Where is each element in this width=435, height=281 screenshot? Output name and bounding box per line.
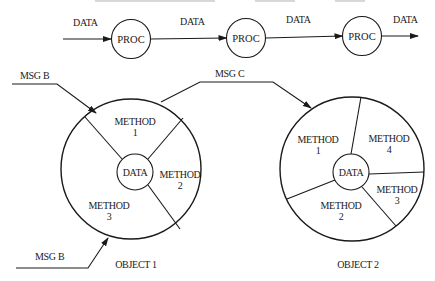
object-1-method-1-label: METHOD (115, 116, 156, 127)
data-label-1-2: DATA (180, 16, 206, 27)
object-2-method-3-label: METHOD (377, 184, 418, 195)
msg-b-top-arrow (12, 84, 96, 113)
process-label-1: PROC (117, 34, 144, 45)
process-label-3: PROC (348, 31, 375, 42)
process-node-3: PROC (343, 17, 382, 56)
process-vs-object-diagram: DATA PROC DATA PROC DATA PROC DATA DATA (0, 0, 435, 281)
object-2-method-1-number: 1 (316, 145, 321, 156)
message-msg-c: MSG C (161, 68, 311, 108)
data-label-in: DATA (73, 17, 99, 28)
process-node-2: PROC (227, 19, 266, 58)
object-2-method-4-number: 4 (387, 144, 392, 155)
data-flow-arrow-2-3 (266, 36, 343, 38)
process-pipeline: DATA PROC DATA PROC DATA PROC DATA (63, 14, 419, 59)
data-label-2-3: DATA (286, 14, 312, 25)
msg-c-label: MSG C (215, 68, 245, 79)
process-label-2: PROC (232, 33, 259, 44)
data-label-out: DATA (393, 14, 419, 25)
object-2-method-3-number: 3 (395, 195, 400, 206)
object-2-divider (287, 180, 335, 199)
object-1-data-label: DATA (123, 167, 149, 178)
object-2-data-label: DATA (339, 167, 365, 178)
process-node-1: PROC (112, 20, 151, 59)
object-1-caption: OBJECT 1 (115, 259, 157, 270)
object-2-caption: OBJECT 2 (337, 259, 379, 270)
object-2-method-4-label: METHOD (369, 133, 410, 144)
object-2-divider (351, 97, 361, 154)
object-1-method-2-number: 2 (178, 180, 183, 191)
data-flow-arrow-1-2 (151, 38, 227, 39)
msg-b-top-label: MSG B (20, 70, 50, 81)
object-1-method-1-number: 1 (133, 127, 138, 138)
object-1-divider (148, 185, 180, 229)
object-2-divider (369, 172, 424, 174)
object-1: DATA METHOD 1 METHOD 2 METHOD 3 OBJECT 1 (61, 99, 201, 270)
msg-c-arrow (161, 82, 311, 108)
object-2-method-2-number: 2 (339, 211, 344, 222)
object-2-method-1-label: METHOD (298, 134, 339, 145)
object-2-method-2-label: METHOD (321, 200, 362, 211)
message-msg-b-top: MSG B (12, 70, 96, 113)
message-msg-b-bottom: MSG B (16, 238, 108, 268)
msg-b-bottom-label: MSG B (35, 251, 65, 262)
object-2: DATA METHOD 1 METHOD 2 METHOD 3 METHOD 4… (280, 97, 424, 270)
object-1-method-3-number: 3 (107, 211, 112, 222)
object-1-method-3-label: METHOD (89, 200, 130, 211)
object-1-method-2-label: METHOD (160, 169, 201, 180)
